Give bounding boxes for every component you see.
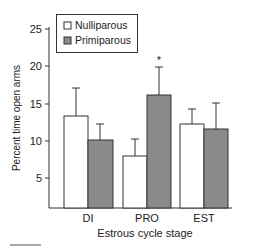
bar-pro-primiparous	[147, 95, 171, 208]
bar-pro-nulliparous	[123, 156, 147, 208]
x-tick-label: DI	[83, 212, 94, 224]
bar-est-primiparous	[204, 129, 228, 208]
significance-marker: *	[157, 54, 162, 66]
x-tick-labels: DI PRO EST	[83, 212, 215, 224]
x-axis-label: Estrous cycle stage	[97, 227, 192, 239]
legend-label-nulliparous: Nulliparous	[75, 19, 128, 31]
series-primiparous	[88, 67, 228, 208]
bar-est-nulliparous	[180, 124, 204, 208]
bar-di-primiparous	[88, 140, 113, 208]
y-tick-labels: 25 20 15 10 5	[30, 23, 42, 184]
x-tick-label: EST	[193, 212, 215, 224]
legend-swatch-nulliparous	[64, 22, 71, 29]
y-tick-label: 5	[36, 172, 42, 184]
y-tick-label: 20	[30, 60, 42, 72]
bar-chart: 25 20 15 10 5 Percent time open arms * D…	[0, 0, 254, 247]
bar-di-nulliparous	[64, 116, 88, 208]
legend: Nulliparous Primiparous	[57, 15, 138, 53]
y-ticks	[45, 29, 49, 178]
y-tick-label: 25	[30, 23, 42, 35]
legend-swatch-primiparous	[64, 37, 71, 44]
y-tick-label: 10	[30, 135, 42, 147]
y-axis-label: Percent time open arms	[11, 65, 22, 171]
legend-label-primiparous: Primiparous	[75, 34, 131, 46]
y-tick-label: 15	[30, 98, 42, 110]
series-nulliparous	[64, 88, 204, 208]
x-tick-label: PRO	[135, 212, 159, 224]
